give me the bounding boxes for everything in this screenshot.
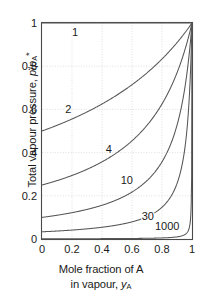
x-tick-label: 0.2 [64, 243, 79, 255]
x-tick-label: 1 [189, 243, 195, 255]
y-tick-label: 0.8 [22, 60, 37, 72]
y-tick-label: 0 [31, 233, 37, 245]
plot-frame [42, 23, 193, 240]
curve-label-4: 4 [106, 143, 112, 155]
y-axis-tick-labels: 00.20.40.60.81 [22, 17, 37, 245]
vapour-pressure-chart-figure: 1122441010303010001000 00.20.40.60.81 00… [0, 0, 202, 307]
curve-group [42, 23, 192, 239]
y-tick-label: 1 [31, 17, 37, 29]
curve-ratio-1000 [42, 23, 192, 239]
gridlines [42, 23, 192, 239]
x-tick-label: 0.4 [94, 243, 109, 255]
y-tick-label: 0.6 [22, 103, 37, 115]
curve-label-2: 2 [65, 103, 71, 115]
curve-label-1: 1 [72, 26, 78, 38]
x-axis-title-line2-prefix: in vapour, [71, 278, 122, 290]
x-axis-tick-labels: 00.20.40.60.81 [39, 243, 195, 255]
x-axis-title: Mole fraction of A in vapour, yA [0, 262, 202, 294]
curve-label-group: 1122441010303010001000 [65, 26, 179, 232]
curve-label-30: 30 [142, 210, 154, 222]
x-axis-title-line2: in vapour, yA [0, 277, 202, 295]
x-tick-label: 0.6 [124, 243, 139, 255]
curve-label-1000: 1000 [155, 220, 179, 232]
y-tick-label: 0.2 [22, 190, 37, 202]
y-tick-label: 0.4 [22, 147, 37, 159]
curve-label-10: 10 [121, 174, 133, 186]
x-axis-title-line1: Mole fraction of A [0, 262, 202, 277]
curve-ratio-10 [42, 23, 192, 217]
x-tick-label: 0 [39, 243, 45, 255]
curve-ratio-30 [42, 23, 192, 232]
x-tick-label: 0.8 [154, 243, 169, 255]
chart-plot-area: 1122441010303010001000 00.20.40.60.81 00… [0, 0, 202, 307]
x-axis-title-sub: A [127, 282, 132, 291]
